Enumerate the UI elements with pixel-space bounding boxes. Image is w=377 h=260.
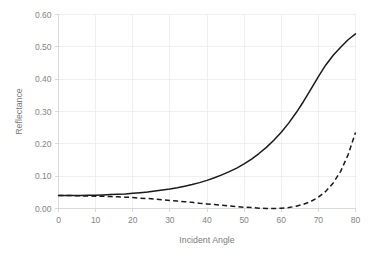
reflectance-chart: 0.000.100.200.300.400.500.60 01020304050… [0,0,377,260]
x-tick-label-3: 30 [165,215,175,225]
x-tick-label-1: 10 [91,215,101,225]
x-tick-label-2: 20 [128,215,138,225]
x-tick-label-7: 70 [314,215,324,225]
y-tick-label-2: 0.20 [35,139,52,149]
y-tick-label-4: 0.40 [35,74,52,84]
x-tick-label-5: 50 [239,215,249,225]
x-tick-label-6: 60 [277,215,287,225]
y-tick-label-6: 0.60 [35,10,52,20]
y-tick-label-1: 0.10 [35,171,52,181]
y-axis-tick-labels: 0.000.100.200.300.400.500.60 [35,10,52,214]
tick-marks [55,15,356,213]
y-tick-label-5: 0.50 [35,42,52,52]
x-axis-tick-labels: 01020304050607080 [56,215,360,225]
x-axis-title: Incident Angle [179,235,234,245]
y-tick-label-0: 0.00 [35,204,52,214]
x-tick-label-0: 0 [56,215,61,225]
y-tick-label-3: 0.30 [35,107,52,117]
x-tick-label-8: 80 [351,215,361,225]
x-tick-label-4: 40 [202,215,212,225]
y-axis-title: Reflectance [14,88,24,135]
chart-canvas: 0.000.100.200.300.400.500.60 01020304050… [0,0,377,260]
